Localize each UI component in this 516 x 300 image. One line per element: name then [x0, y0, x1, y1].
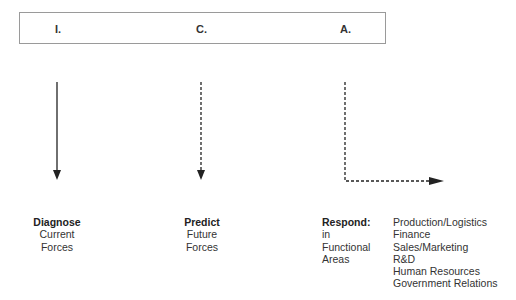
list-item: Sales/Marketing: [393, 241, 516, 253]
list-item: Human Resources: [393, 265, 516, 277]
respond-label: Respond: in Functional Areas: [322, 216, 388, 265]
list-item: R&D: [393, 253, 516, 265]
dashed-elbow-arrow-icon: [345, 82, 444, 185]
dashed-arrow-icon: [197, 82, 205, 180]
functional-areas-list: Production/Logistics Finance Sales/Marke…: [393, 216, 516, 290]
diagnose-label: Diagnose Current Forces: [26, 216, 88, 253]
solid-arrow-icon: [53, 82, 61, 180]
list-item: Finance: [393, 228, 516, 240]
list-item: Government Relations: [393, 277, 516, 289]
predict-label: Predict Future Forces: [172, 216, 232, 253]
list-item: Production/Logistics: [393, 216, 516, 228]
